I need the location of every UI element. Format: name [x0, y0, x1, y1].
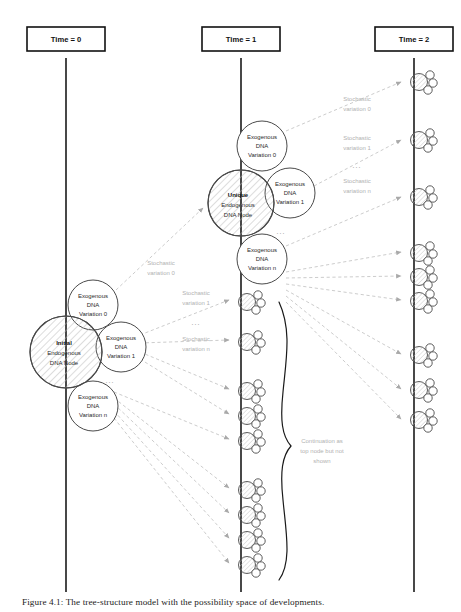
continuation-note-line2: top node but not	[300, 448, 344, 454]
arrow-t1-to-t2-c5	[286, 276, 401, 278]
arrow-t1-to-t2-c4	[286, 252, 401, 272]
stoch-t0-1-line1: Stochastic	[182, 290, 210, 296]
exogenous-node-t1-0[interactable]: Exogenous DNA Variation 0	[237, 121, 287, 171]
tree-diagram-svg: Time = 0 Time = 1 Time = 2	[0, 0, 461, 612]
stoch-t1-0-line2: variation 0	[343, 106, 371, 112]
initial-node-line2: DNA Node	[50, 360, 79, 366]
exo-t1-n-line1: Exogenous	[247, 247, 277, 253]
arrow-t1-to-t2-c8	[286, 296, 401, 389]
time-box-t0-label: Time = 0	[51, 35, 81, 44]
arrow-t0-to-t1-c3	[140, 352, 229, 389]
exo-t1-1-line3: Variation 1	[276, 199, 305, 205]
time-header-boxes: Time = 0 Time = 1 Time = 2	[27, 27, 453, 51]
stochastic-labels-t1: Stochastic variation 0 Stochastic variat…	[343, 96, 371, 194]
exo-t0-0-line1: Exogenous	[78, 293, 108, 299]
mini-cluster-t1-9[interactable]	[239, 554, 266, 577]
stoch-t0-n-line1: Stochastic	[182, 336, 210, 342]
stochastic-label-t0-0: Stochastic variation 0	[147, 260, 175, 276]
mini-cluster-t1-8[interactable]	[239, 529, 266, 552]
figure-root: Time = 0 Time = 1 Time = 2	[0, 0, 461, 612]
stochastic-label-t1-n: Stochastic variation n	[343, 178, 371, 194]
arrow-t0-to-unique	[116, 208, 203, 290]
mini-cluster-t1-6[interactable]	[239, 479, 266, 502]
exogenous-node-t1-n[interactable]: Exogenous DNA Variation n	[237, 234, 287, 284]
dashed-arrows-t1-to-t2	[286, 82, 401, 419]
exo-t0-n-line3: Variation n	[79, 412, 107, 418]
arrow-t1-to-t2-c7	[286, 290, 401, 354]
figure-caption: Figure 4.1: The tree-structure model wit…	[22, 597, 442, 608]
time-box-t2[interactable]: Time = 2	[375, 27, 453, 51]
arrow-t0-to-t1-c6	[114, 398, 229, 488]
continuation-note-line1: Continuation as	[301, 438, 343, 444]
time-box-t1[interactable]: Time = 1	[202, 27, 280, 51]
mini-clusters-t1	[239, 291, 266, 577]
stochastic-label-t0-n: Stochastic variation n	[182, 336, 210, 352]
stochastic-label-t0-1: Stochastic variation 1	[182, 290, 210, 306]
cluster-time1: Exogenous DNA Variation 0 Exogenous DNA …	[208, 121, 315, 284]
exo-t1-0-line1: Exogenous	[247, 134, 277, 140]
stoch-t1-0-line1: Stochastic	[343, 96, 371, 102]
stochastic-label-t1-0: Stochastic variation 0	[343, 96, 371, 112]
exo-t0-1-line2: DNA	[115, 344, 128, 350]
arrow-t0-to-t1-c5	[114, 392, 229, 439]
time-box-t0[interactable]: Time = 0	[27, 27, 105, 51]
exo-t1-n-line3: Variation n	[248, 265, 276, 271]
exo-t1-n-line2: DNA	[256, 256, 269, 262]
arrow-t0-to-t1-c4	[140, 359, 229, 414]
exo-t0-1-line1: Exogenous	[106, 335, 136, 341]
stoch-t1-1-line2: variation 1	[343, 145, 371, 151]
arrow-t0-to-t1-c9	[114, 418, 229, 563]
unique-node-title: Unique	[228, 192, 249, 198]
stoch-t0-n-line2: variation n	[182, 346, 210, 352]
stochastic-label-t1-1: Stochastic variation 1	[343, 135, 371, 151]
mini-cluster-t1-4[interactable]	[239, 405, 266, 428]
exo-t0-n-line2: DNA	[87, 403, 100, 409]
exo-t1-1-line1: Exogenous	[275, 181, 305, 187]
cluster-time0: Exogenous DNA Variation 0 Exogenous DNA …	[30, 280, 146, 431]
arrow-t0-to-t1-c7	[114, 404, 229, 513]
mini-cluster-t1-7[interactable]	[239, 504, 266, 527]
exo-t0-1-line3: Variation 1	[107, 353, 136, 359]
endogenous-node-initial[interactable]: Initial Endogenous DNA Node	[30, 316, 102, 388]
continuation-note: Continuation as top node but not shown	[300, 438, 344, 464]
mini-cluster-t1-5[interactable]	[239, 430, 266, 453]
stoch-t0-1-line2: variation 1	[182, 300, 210, 306]
exo-t1-0-line2: DNA	[256, 143, 269, 149]
stoch-t1-n-line1: Stochastic	[343, 178, 371, 184]
arrow-t1-to-t2-c9	[286, 302, 401, 419]
endogenous-node-unique[interactable]: Unique Endogenous DNA Node	[208, 170, 274, 236]
ellipsis-stochastic-t0: ...	[192, 319, 201, 326]
exogenous-node-t0-1[interactable]: Exogenous DNA Variation 1	[96, 322, 146, 372]
stoch-t1-1-line1: Stochastic	[343, 135, 371, 141]
continuation-note-line3: shown	[313, 458, 330, 464]
continuation-brace	[279, 302, 291, 580]
initial-node-title: Initial	[56, 340, 72, 346]
ellipsis-t1-cluster: ...	[277, 228, 286, 235]
time-box-t1-label: Time = 1	[226, 35, 257, 44]
ellipsis-t0-cluster: ...	[106, 377, 115, 384]
exo-t1-0-line3: Variation 0	[248, 152, 277, 158]
exo-t0-0-line3: Variation 0	[79, 311, 108, 317]
stoch-t0-0-line2: variation 0	[147, 270, 175, 276]
time-box-t2-label: Time = 2	[399, 35, 429, 44]
mini-cluster-t1-2[interactable]	[239, 331, 266, 354]
stoch-t1-n-line2: variation n	[343, 188, 371, 194]
stochastic-labels-t0: Stochastic variation 0 Stochastic variat…	[147, 260, 210, 352]
exogenous-node-t0-n[interactable]: Exogenous DNA Variation n	[68, 381, 118, 431]
initial-node-line1: Endogenous	[47, 350, 81, 356]
diagram-canvas: Time = 0 Time = 1 Time = 2	[0, 0, 461, 612]
unique-node-line1: Endogenous	[221, 202, 255, 208]
exo-t0-n-line1: Exogenous	[78, 394, 108, 400]
mini-cluster-t1-1[interactable]	[239, 291, 266, 314]
exo-t1-1-line2: DNA	[284, 190, 297, 196]
stoch-t0-0-line1: Stochastic	[147, 260, 175, 266]
mini-cluster-t1-3[interactable]	[239, 380, 266, 403]
unique-node-line2: DNA Node	[224, 212, 253, 218]
arrow-t1-to-t2-c6	[286, 284, 401, 300]
ellipsis-stochastic-t1: ...	[353, 162, 362, 169]
exo-t0-0-line2: DNA	[87, 302, 100, 308]
